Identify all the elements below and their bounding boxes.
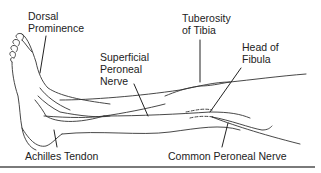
label-dorsal-prominence-line1: Dorsal [28, 10, 84, 22]
label-dorsal-prominence-line2: Prominence [28, 22, 84, 34]
label-head-of-fibula-line2: Fibula [242, 53, 279, 65]
label-head-of-fibula: Head of Fibula [242, 41, 279, 65]
label-achilles-tendon: Achilles Tendon [25, 150, 98, 162]
label-tuberosity-of-tibia-line2: of Tibia [182, 24, 231, 36]
label-superficial-peroneal-nerve-line2: Peroneal [100, 63, 149, 75]
dorsal-prominence-leader [40, 36, 46, 73]
label-dorsal-prominence: Dorsal Prominence [28, 10, 84, 34]
label-tuberosity-of-tibia: Tuberosity of Tibia [182, 12, 231, 36]
achilles-tendon-leader [54, 130, 57, 147]
label-head-of-fibula-line1: Head of [242, 41, 279, 53]
label-superficial-peroneal-nerve-line3: Nerve [100, 75, 149, 87]
label-tuberosity-of-tibia-line1: Tuberosity [182, 12, 231, 24]
common-peroneal-nerve-leader [222, 123, 228, 147]
head-of-fibula-leader [210, 68, 241, 112]
label-common-peroneal-nerve: Common Peroneal Nerve [168, 150, 286, 162]
label-superficial-peroneal-nerve-line1: Superficial [100, 51, 149, 63]
leg-anatomy-diagram: Dorsal Prominence Superficial Peroneal N… [0, 0, 321, 173]
superficial-peroneal-nerve-leader [134, 84, 148, 116]
bottom-divider-rule [0, 166, 315, 168]
label-superficial-peroneal-nerve: Superficial Peroneal Nerve [100, 51, 149, 87]
